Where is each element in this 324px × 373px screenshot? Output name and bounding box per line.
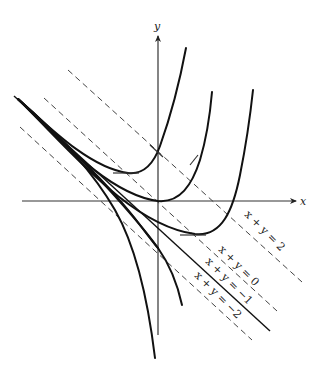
tangent-tick — [190, 155, 198, 165]
isocline-diagram: x y x + y = 2 x + y = 0 x + y = −1 x + y… — [0, 0, 324, 373]
isocline-label-2: x + y = 2 — [242, 208, 288, 254]
y-axis-label: y — [153, 20, 161, 33]
solution-curve-b — [18, 92, 212, 201]
x-axis-label: x — [300, 195, 307, 208]
axes: x y — [22, 20, 307, 335]
solution-curve-c — [18, 90, 253, 234]
solution-curve-e — [18, 99, 155, 358]
isocline-x-plus-y-0 — [44, 98, 277, 311]
isocline-x-plus-y-minus-2 — [20, 127, 252, 340]
solution-curves — [18, 48, 253, 358]
